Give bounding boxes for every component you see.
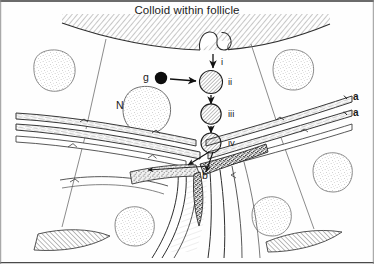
vesicle-iv	[201, 133, 221, 153]
granule-dot	[155, 72, 167, 84]
label-stage-ii: ii	[228, 77, 232, 87]
wedge-bottom-left	[34, 230, 110, 251]
vesicle-iii	[201, 104, 221, 124]
colloid-region	[62, 14, 330, 50]
label-stage-iv: iv	[228, 138, 235, 148]
label-capillary-a-upper: a	[353, 92, 359, 102]
capillary-walls	[16, 96, 352, 169]
diagram-canvas	[0, 0, 374, 264]
vesicle-chain	[200, 54, 223, 153]
arrow-granule-to-vesicle	[170, 79, 196, 81]
label-stage-i: i	[221, 57, 223, 67]
label-stage-iii: iii	[228, 109, 234, 119]
figure-title: Colloid within follicle	[0, 5, 374, 17]
vesicle-ii	[200, 71, 223, 94]
label-nucleus-n: N	[116, 100, 124, 111]
label-basal-b: b	[202, 170, 208, 181]
label-granule-g: g	[143, 72, 149, 83]
label-capillary-a-lower: a	[353, 108, 359, 118]
granule-group	[155, 72, 196, 84]
histology-figure: Colloid within follicle i ii iii iv g N …	[0, 0, 374, 264]
